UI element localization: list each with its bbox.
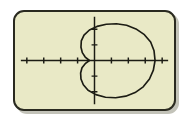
lcd-screen [13,10,176,111]
calculator-screenshot [0,0,188,121]
graph-plot [15,12,174,109]
